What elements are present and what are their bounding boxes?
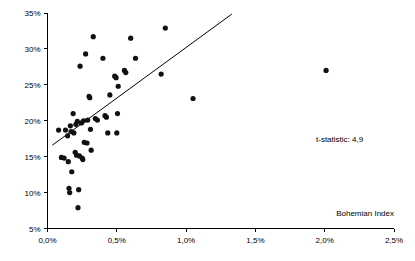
data-point-27 <box>84 140 89 145</box>
data-point-8 <box>68 123 73 128</box>
data-point-40 <box>107 92 112 97</box>
x-tick-label-2: 1,0% <box>177 236 195 245</box>
data-point-4 <box>65 133 70 138</box>
data-points-group <box>56 25 329 210</box>
data-point-33 <box>91 34 96 39</box>
data-point-31 <box>88 127 93 132</box>
y-tick-label-0: 5% <box>29 225 41 234</box>
data-point-38 <box>104 115 109 120</box>
data-point-49 <box>133 56 138 61</box>
data-point-48 <box>128 36 133 41</box>
regression-line <box>52 14 231 145</box>
chart-canvas: 5%10%15%20%25%30%35%0,0%0,5%1,0%1,5%2,0%… <box>0 0 415 261</box>
y-tick-label-4: 25% <box>24 81 40 90</box>
data-point-53 <box>323 68 328 73</box>
data-point-39 <box>105 130 110 135</box>
data-point-23 <box>80 157 85 162</box>
data-point-36 <box>100 56 105 61</box>
data-point-11 <box>71 111 76 116</box>
x-tick-label-4: 2,0% <box>316 236 334 245</box>
data-point-12 <box>71 130 76 135</box>
data-point-28 <box>85 117 90 122</box>
data-point-20 <box>77 64 82 69</box>
y-tick-label-1: 10% <box>24 189 40 198</box>
data-point-47 <box>123 70 128 75</box>
data-point-18 <box>76 187 81 192</box>
data-point-35 <box>95 117 100 122</box>
data-point-44 <box>115 111 120 116</box>
x-tick-label-0: 0,0% <box>38 236 56 245</box>
data-point-45 <box>116 84 121 89</box>
axis-ticks-group <box>44 13 394 232</box>
data-point-0 <box>56 127 61 132</box>
data-point-10 <box>69 169 74 174</box>
y-tick-label-6: 35% <box>24 9 40 18</box>
data-point-17 <box>75 205 80 210</box>
scatter-chart-figure: 5%10%15%20%25%30%35%0,0%0,5%1,0%1,5%2,0%… <box>0 0 415 261</box>
data-point-51 <box>163 25 168 30</box>
data-point-7 <box>67 190 72 195</box>
data-point-26 <box>83 51 88 56</box>
y-tick-label-3: 20% <box>24 117 40 126</box>
data-point-5 <box>66 159 71 164</box>
regression-trend-line <box>52 14 231 145</box>
x-axis-title: Bohemian Index <box>336 209 394 218</box>
data-point-2 <box>62 156 67 161</box>
data-point-52 <box>190 96 195 101</box>
y-tick-label-2: 15% <box>24 153 40 162</box>
data-point-30 <box>87 95 92 100</box>
x-tick-label-1: 0,5% <box>108 236 126 245</box>
y-tick-label-5: 30% <box>24 45 40 54</box>
data-point-43 <box>114 130 119 135</box>
x-tick-label-5: 2,5% <box>385 236 403 245</box>
data-point-3 <box>63 127 68 132</box>
x-tick-label-3: 1,5% <box>246 236 264 245</box>
data-point-32 <box>89 148 94 153</box>
t-statistic-annotation: t-statistic: 4,9 <box>316 135 364 144</box>
data-point-50 <box>159 71 164 76</box>
data-point-42 <box>114 75 119 80</box>
